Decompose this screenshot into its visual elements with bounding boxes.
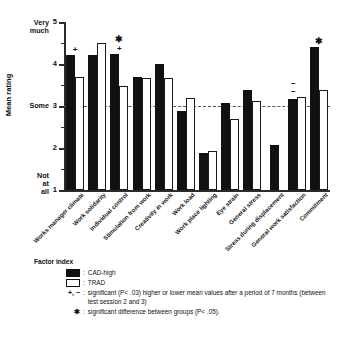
y-tick-label: 2 — [53, 144, 57, 152]
trad-swatch-icon — [66, 279, 80, 287]
asterisk-marker-icon: ✱ — [115, 35, 123, 44]
y-tick-label: 5 — [53, 18, 57, 26]
bar-group — [153, 22, 175, 190]
legend-notes: +, −:significant (P< .03) higher or lowe… — [34, 289, 334, 316]
legend-note-text: significant (P< .03) higher or lower mea… — [88, 289, 334, 306]
legend-note-symbol-cell: +, − — [34, 289, 80, 296]
bar-group — [86, 22, 108, 190]
bar-cad-high — [177, 111, 186, 190]
legend-note: +, −:significant (P< .03) higher or lowe… — [34, 289, 334, 306]
bar-trad — [164, 78, 173, 190]
bar-trad — [230, 119, 239, 190]
legend-note: ✱:significant difference between groups … — [34, 308, 334, 317]
bar-cad-high — [310, 47, 319, 190]
legend-note-symbol-cell: ✱ — [34, 308, 80, 316]
y-tick-major — [59, 190, 64, 192]
bar-cad-high — [110, 54, 119, 191]
bar-trad — [297, 97, 306, 190]
bar-cad-high — [243, 90, 252, 190]
bar-cad-high — [88, 55, 97, 190]
bar-cad-high — [155, 64, 164, 190]
plot-area: 12345Very muchSomeNot at all +✱+− −✱ — [64, 22, 330, 190]
bar-cad-high — [133, 77, 142, 190]
y-tick-label: 1 — [53, 186, 57, 194]
bar-group: + — [64, 22, 86, 190]
bar-group: ✱+ — [108, 22, 130, 190]
legend-note-text: significant difference between groups (P… — [88, 308, 334, 317]
legend-colon: : — [83, 269, 85, 276]
y-axis-anchor-label: Very much — [30, 19, 49, 35]
legend-colon: : — [83, 279, 85, 286]
legend-title: Factor index — [34, 258, 334, 265]
y-tick-label: 4 — [53, 60, 57, 68]
plus-marker-icon: + — [117, 45, 122, 53]
legend-entry-label: CAD-high — [88, 269, 334, 278]
bar-group — [263, 22, 285, 190]
y-axis-anchor-label: Some — [29, 102, 49, 110]
significance-marker-group: ✱+ — [115, 35, 123, 54]
bar-cad-high — [270, 145, 279, 190]
legend-entry: :TRAD — [34, 279, 334, 288]
bar-group — [241, 22, 263, 190]
bar-trad — [319, 90, 328, 190]
asterisk-marker-icon: ✱ — [315, 37, 323, 46]
bar-groups: +✱+− −✱ — [64, 22, 330, 190]
legend-entries: :CAD-high:TRAD — [34, 269, 334, 288]
legend-swatch-cell — [34, 269, 80, 277]
legend-note-symbol-icon: +, − — [68, 289, 80, 296]
bar-cad-high — [66, 55, 75, 190]
legend: Factor index :CAD-high:TRAD +, −:signifi… — [34, 258, 334, 318]
significance-marker-group: + — [73, 46, 78, 55]
y-axis-title: Mean rating — [4, 74, 13, 117]
bar-group: − − — [286, 22, 308, 190]
bar-group: ✱ — [308, 22, 330, 190]
y-tick-label: 3 — [53, 102, 57, 110]
bar-group — [197, 22, 219, 190]
bar-group — [175, 22, 197, 190]
x-axis-label: Work place lighting — [173, 191, 218, 236]
legend-entry: :CAD-high — [34, 269, 334, 278]
bar-trad — [186, 98, 195, 190]
bar-group — [130, 22, 152, 190]
bar-trad — [208, 151, 217, 190]
bar-cad-high — [288, 99, 297, 190]
bar-group — [219, 22, 241, 190]
legend-swatch-cell — [34, 279, 80, 287]
legend-note-symbol-icon: ✱ — [74, 308, 80, 316]
significance-marker-group: − − — [291, 80, 302, 97]
significance-marker-group: ✱ — [315, 37, 323, 47]
bar-trad — [75, 77, 84, 190]
cad-high-swatch-icon — [66, 269, 80, 277]
bar-cad-high — [221, 103, 230, 190]
legend-colon: : — [83, 308, 85, 315]
legend-entry-label: TRAD — [88, 279, 334, 288]
bar-trad — [142, 78, 151, 190]
chart-figure: Mean rating 12345Very muchSomeNot at all… — [0, 0, 351, 339]
plus-marker-icon: + — [73, 46, 78, 54]
y-axis-anchor-label: Not at all — [37, 172, 49, 195]
bar-trad — [252, 101, 261, 190]
bar-trad — [119, 86, 128, 190]
bar-trad — [97, 43, 106, 190]
bar-cad-high — [199, 153, 208, 190]
x-axis-line — [64, 190, 330, 192]
minus-marker-icon: − − — [291, 80, 302, 96]
legend-colon: : — [83, 289, 85, 296]
